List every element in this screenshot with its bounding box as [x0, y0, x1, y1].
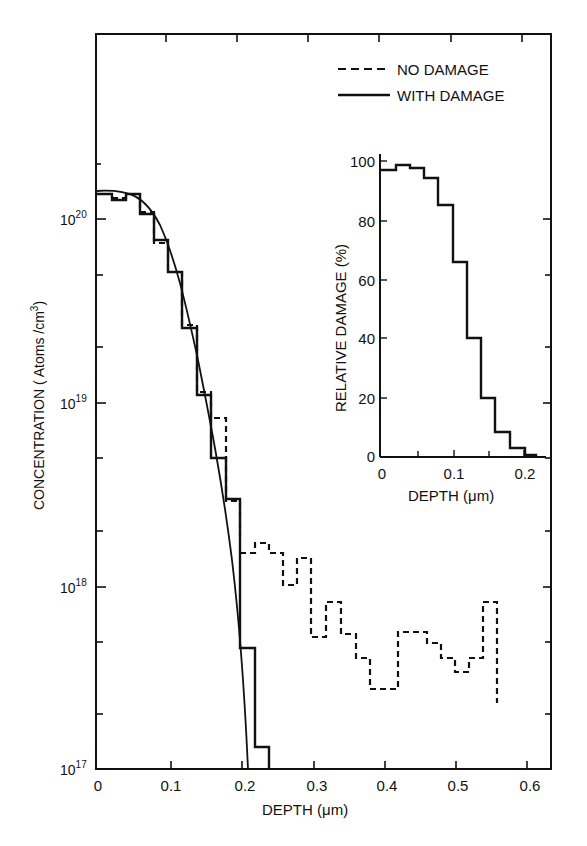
inset-x-tick-label: 0.2 [515, 465, 536, 482]
x-tick-labels: 0 0.1 0.2 0.3 0.4 0.5 0.6 [94, 777, 541, 794]
y-axis-label: CONCENTRATION ( Atoms /cm3) [29, 301, 47, 510]
inset-plot: 100 80 60 40 20 0 0 0.1 0.2 DEPTH (μm) R… [332, 153, 546, 504]
x-tick-label: 0.3 [307, 777, 328, 794]
inset-y-tick-label: 0 [367, 448, 375, 465]
x-tick-label: 0.1 [161, 777, 182, 794]
y-tick-label: 1020 [60, 209, 87, 228]
inset-y-tick-labels: 100 80 60 40 20 0 [350, 153, 375, 465]
inset-y-tick-label: 40 [358, 330, 375, 347]
inset-y-tick-label: 60 [358, 272, 375, 289]
inset-x-axis-label: DEPTH (μm) [408, 487, 494, 504]
inset-y-tick-label: 20 [358, 390, 375, 407]
inset-y-tick-label: 100 [350, 153, 375, 170]
inset-y-tick-label: 80 [358, 213, 375, 230]
x-tick-label: 0.4 [377, 777, 398, 794]
inset-x-tick-label: 0 [378, 465, 386, 482]
y-tick-label: 1018 [60, 577, 87, 596]
inset-x-ticks [418, 450, 524, 457]
series-relative-damage [380, 165, 536, 457]
inset-y-ticks [380, 161, 387, 398]
figure: 0 0.1 0.2 0.3 0.4 0.5 0.6 DEPTH (μm) 102… [0, 0, 587, 846]
x-axis-label: DEPTH (μm) [262, 801, 348, 818]
legend-with-damage: WITH DAMAGE [397, 87, 505, 104]
inset-y-axis-label: RELATIVE DAMAGE (%) [332, 244, 349, 412]
x-tick-label: 0.5 [448, 777, 469, 794]
x-tick-label: 0 [94, 777, 102, 794]
inset-x-tick-label: 0.1 [444, 465, 465, 482]
series-no-damage [96, 194, 497, 703]
inset-x-tick-labels: 0 0.1 0.2 [378, 465, 536, 482]
y-tick-label: 1019 [60, 393, 87, 412]
main-plot: 0 0.1 0.2 0.3 0.4 0.5 0.6 DEPTH (μm) 102… [29, 34, 551, 818]
y-tick-labels: 1020 1019 1018 1017 [60, 209, 87, 778]
x-tick-label: 0.6 [520, 777, 541, 794]
y-tick-label: 1017 [60, 759, 87, 778]
legend: NO DAMAGE WITH DAMAGE [338, 61, 505, 104]
legend-no-damage: NO DAMAGE [397, 61, 489, 78]
x-tick-label: 0.2 [235, 777, 256, 794]
